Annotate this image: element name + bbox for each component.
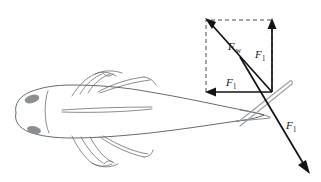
label-fl-thrust-symbol: F xyxy=(285,119,293,131)
label-fl-thrust-subscript: l xyxy=(294,125,296,134)
fl-thrust-arrow-head xyxy=(298,160,310,174)
fl-horizontal-arrow-head xyxy=(205,88,216,97)
label-fl-vertical-symbol: F xyxy=(254,48,262,60)
lower-fin-long-ray xyxy=(100,137,144,157)
tail-ray-edge-2 xyxy=(240,84,292,126)
label-fl-thrust: Fl xyxy=(285,119,296,134)
fish-lower-fins xyxy=(72,136,153,167)
label-fl-vertical-subscript: l xyxy=(263,54,265,63)
figure-root: Fw Fl Fl Fl xyxy=(0,0,321,182)
tail-ray-edge-1 xyxy=(238,81,290,122)
label-fw: Fw xyxy=(227,40,242,55)
upper-fin-tip xyxy=(144,77,156,85)
label-fl-horizontal-symbol: F xyxy=(225,76,233,88)
force-diagram-group: Fw Fl Fl Fl xyxy=(205,18,310,174)
fish-group xyxy=(16,71,293,167)
vector-vertical-fl xyxy=(268,18,277,92)
label-fl-horizontal-subscript: l xyxy=(234,82,236,91)
label-fl-vertical: Fl xyxy=(254,48,265,63)
label-fw-subscript: w xyxy=(236,46,242,55)
lower-fin-notch xyxy=(104,161,114,164)
lower-fin-ray-3 xyxy=(90,137,112,162)
label-fl-horizontal: Fl xyxy=(225,76,236,91)
label-fw-symbol: F xyxy=(227,40,235,52)
fish-body-outline xyxy=(16,85,264,138)
tail-ray-tip xyxy=(290,81,292,84)
figure-canvas: Fw Fl Fl Fl xyxy=(0,0,321,182)
